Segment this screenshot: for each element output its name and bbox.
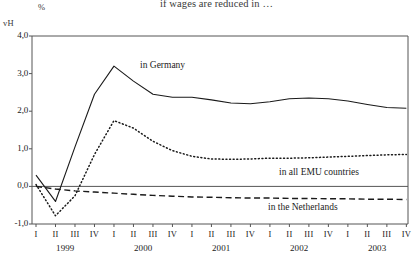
series-line-in-the-netherlands [36, 186, 406, 199]
y-tick-label: 0,0 [2, 180, 28, 190]
y-tick-label: 3,0 [2, 68, 28, 78]
x-year-label: 2001 [199, 243, 243, 253]
x-year-label: 2003 [355, 243, 399, 253]
x-tick-label: IV [395, 229, 417, 239]
series-line-in-germany [36, 66, 406, 201]
y-tick-label: 1,0 [2, 143, 28, 153]
chart-root: if wages are reduced in … % vH 4,03,02,0… [0, 0, 420, 259]
series-label-germany: in Germany [140, 60, 185, 70]
chart-plot-area [0, 0, 420, 259]
series-layer [36, 66, 406, 216]
x-year-label: 2000 [121, 243, 165, 253]
series-label-emu: in all EMU countries [279, 167, 359, 177]
x-year-label: 1999 [43, 243, 87, 253]
x-year-label: 2002 [277, 243, 321, 253]
y-tick-label: -1,0 [2, 218, 28, 228]
y-tick-label: 2,0 [2, 105, 28, 115]
y-tick-label: 4,0 [2, 30, 28, 40]
series-label-netherlands: in the Netherlands [268, 202, 338, 212]
